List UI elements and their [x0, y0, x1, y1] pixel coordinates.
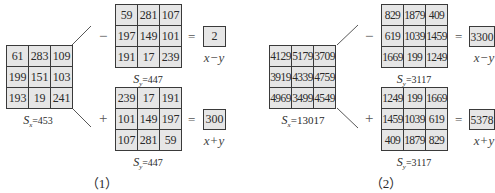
source-sum-label-2: Sx=13017	[282, 113, 325, 129]
equals-sign: =	[188, 113, 195, 126]
grid-cell: 619	[426, 109, 447, 129]
expression-x-minus-y: x−y	[474, 50, 494, 66]
grid-cell: 409	[382, 130, 403, 150]
grid-cell: 149	[138, 109, 159, 129]
grid-cell: 149	[138, 26, 159, 46]
grid-cell: 61	[7, 46, 28, 66]
grid-cell: 197	[160, 109, 181, 129]
grid-cell: 1249	[426, 47, 447, 67]
grid-cell: 191	[116, 47, 137, 67]
equals-sign: =	[455, 113, 462, 126]
grid-cell: 199	[404, 88, 425, 108]
grid-cell: 101	[160, 26, 181, 46]
source-grid-1: 61 283 109 199 151 103 193 19 241	[6, 45, 73, 109]
top-grid-1: 59 281 107 197 149 101 191 17 239	[115, 4, 182, 68]
grid-cell: 1039	[404, 26, 425, 46]
grid-cell: 191	[160, 88, 181, 108]
grid-cell: 199	[7, 67, 28, 87]
grid-cell: 281	[138, 5, 159, 25]
grid-cell: 829	[382, 5, 403, 25]
grid-cell: 59	[116, 5, 137, 25]
grid-cell: 4129	[270, 46, 291, 66]
grid-cell: 199	[404, 47, 425, 67]
grid-cell: 281	[138, 130, 159, 150]
grid-cell: 409	[426, 5, 447, 25]
grid-cell: 1249	[382, 88, 403, 108]
grid-cell: 59	[160, 130, 181, 150]
bottom-sum-label-1: Sy=447	[133, 155, 163, 171]
equals-sign: =	[188, 30, 195, 43]
grid-cell: 1879	[404, 5, 425, 25]
bottom-grid-2: 1249 199 1669 1459 1039 619 409 1879 829	[381, 87, 448, 151]
grid-cell: 4969	[270, 88, 291, 108]
grid-cell: 17	[138, 88, 159, 108]
grid-cell: 1669	[426, 88, 447, 108]
grid-cell: 829	[426, 130, 447, 150]
equals-sign: =	[455, 30, 462, 43]
result-box-diff-1: 2	[203, 26, 226, 47]
grid-cell: 1459	[382, 109, 403, 129]
grid-cell: 4339	[292, 67, 313, 87]
grid-cell: 3709	[314, 46, 335, 66]
grid-cell: 239	[160, 47, 181, 67]
result-box-diff-2: 3300	[469, 26, 495, 47]
result-box-sum-2: 5378	[469, 109, 495, 130]
grid-cell: 101	[116, 109, 137, 129]
caption-1: （1）	[86, 173, 119, 192]
grid-cell: 151	[29, 67, 50, 87]
grid-cell: 107	[160, 5, 181, 25]
grid-cell: 3499	[292, 88, 313, 108]
bottom-sum-label-2: Sy=3117	[397, 155, 431, 171]
plus-operator: +	[365, 111, 373, 126]
result-box-sum-1: 300	[203, 109, 226, 130]
grid-cell: 1879	[404, 130, 425, 150]
top-sum-label-1: Sy=447	[133, 72, 163, 88]
caption-2: （2）	[370, 173, 403, 192]
grid-cell: 239	[116, 88, 137, 108]
expression-x-plus-y: x+y	[474, 133, 494, 149]
grid-cell: 1039	[404, 109, 425, 129]
grid-cell: 107	[116, 130, 137, 150]
expression-x-plus-y: x+y	[204, 133, 224, 149]
top-sum-label-2: Sy=3117	[397, 72, 431, 88]
plus-operator: +	[99, 111, 107, 126]
grid-cell: 17	[138, 47, 159, 67]
grid-cell: 1669	[382, 47, 403, 67]
minus-operator: −	[99, 29, 107, 44]
grid-cell: 1459	[426, 26, 447, 46]
grid-cell: 109	[51, 46, 72, 66]
minus-operator: −	[365, 29, 373, 44]
grid-cell: 283	[29, 46, 50, 66]
grid-cell: 241	[51, 88, 72, 108]
grid-cell: 5179	[292, 46, 313, 66]
grid-cell: 4759	[314, 67, 335, 87]
bottom-grid-1: 239 17 191 101 149 197 107 281 59	[115, 87, 182, 151]
grid-cell: 197	[116, 26, 137, 46]
grid-cell: 4549	[314, 88, 335, 108]
top-grid-2: 829 1879 409 619 1039 1459 1669 199 1249	[381, 4, 448, 68]
source-grid-2: 4129 5179 3709 3919 4339 4759 4969 3499 …	[269, 45, 336, 109]
grid-cell: 3919	[270, 67, 291, 87]
source-sum-label-1: Sx=453	[23, 113, 53, 129]
expression-x-minus-y: x−y	[204, 50, 224, 66]
grid-cell: 19	[29, 88, 50, 108]
grid-cell: 103	[51, 67, 72, 87]
grid-cell: 619	[382, 26, 403, 46]
grid-cell: 193	[7, 88, 28, 108]
